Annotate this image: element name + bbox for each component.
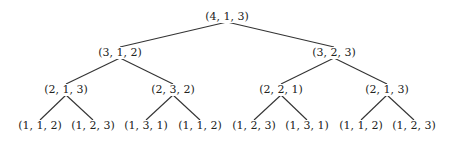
node-l2-3: (2, 2, 1) [258, 84, 304, 96]
node-l2-2: (2, 3, 2) [150, 84, 196, 96]
tree-edge [173, 95, 200, 120]
tree-edge [361, 95, 387, 120]
node-root: (4, 1, 3) [204, 11, 250, 23]
tree-edge [334, 58, 387, 84]
node-l1-right: (3, 2, 3) [311, 47, 357, 59]
node-l2-4: (2, 1, 3) [364, 84, 410, 96]
leaf-node-7: (1, 1, 2) [338, 120, 384, 132]
leaf-node-2: (1, 2, 3) [70, 120, 116, 132]
node-l1-left: (3, 1, 2) [97, 47, 143, 59]
leaf-node-6: (1, 3, 1) [284, 120, 330, 132]
tree-edge [227, 22, 334, 47]
node-l2-1: (2, 1, 3) [43, 84, 89, 96]
tree-edge [120, 22, 227, 47]
tree-edge [120, 58, 173, 84]
leaf-node-5: (1, 2, 3) [231, 120, 277, 132]
leaf-node-4: (1, 1, 2) [177, 120, 223, 132]
tree-edge [254, 95, 281, 120]
tree-edge [66, 95, 93, 120]
tree-edge [281, 95, 307, 120]
tree-edge [66, 58, 120, 84]
leaf-node-8: (1, 2, 3) [391, 120, 437, 132]
leaf-node-1: (1, 1, 2) [17, 120, 63, 132]
leaf-node-3: (1, 3, 1) [123, 120, 169, 132]
tree-edge [281, 58, 334, 84]
tree-edge [40, 95, 66, 120]
tree-edge [146, 95, 173, 120]
tree-edge [387, 95, 414, 120]
